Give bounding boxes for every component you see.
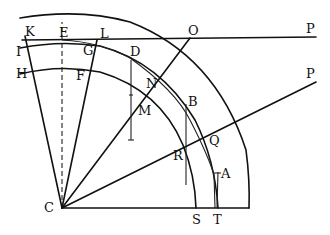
label-e: E (59, 25, 69, 40)
label-s: S (192, 212, 201, 227)
label-d: D (130, 44, 140, 59)
label-h: H (16, 66, 27, 81)
label-l: L (100, 26, 109, 41)
label-n: N (146, 76, 157, 91)
label-o: O (188, 23, 199, 38)
label-q: Q (209, 133, 220, 148)
middle-arc (20, 43, 218, 208)
label-i: I (16, 44, 21, 59)
label-b: B (188, 94, 198, 109)
radius-cl (62, 40, 97, 208)
radius-ck (25, 36, 62, 208)
label-k: K (25, 24, 35, 39)
label-r: R (173, 148, 184, 163)
middle-arc-inner (62, 40, 215, 208)
label-p-right: P (306, 66, 315, 81)
label-g: G (83, 43, 93, 58)
label-f: F (76, 68, 85, 83)
geometry-diagram: K E L O P I G D H F N M B P Q R A C S T (0, 0, 330, 235)
label-a: A (220, 166, 231, 181)
label-p-top: P (306, 21, 315, 36)
label-t: T (213, 212, 222, 227)
label-c: C (44, 200, 54, 215)
label-m: M (138, 103, 151, 118)
